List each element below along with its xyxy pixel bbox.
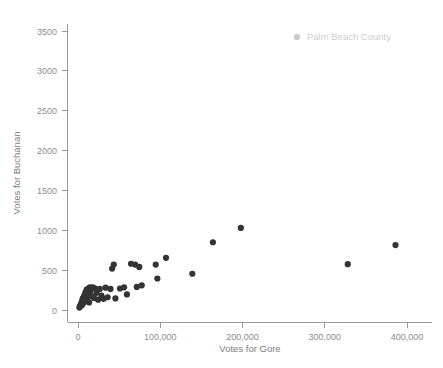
x-axis: 0100,000200,000300,000400,000: [68, 323, 433, 343]
data-point: [86, 299, 92, 305]
y-tick-label: 2500: [37, 106, 57, 116]
y-tick-label: 2000: [37, 146, 57, 156]
chart-legend: Palm Beach County: [294, 31, 391, 42]
y-tick-group: 0500100015002000250030003500: [37, 27, 68, 316]
data-point: [111, 261, 117, 267]
x-tick-label: 300,000: [308, 332, 341, 342]
x-tick-label: 100,000: [144, 332, 177, 342]
legend-label: Palm Beach County: [307, 31, 391, 42]
data-points-group: [76, 225, 398, 311]
data-point: [97, 286, 103, 292]
data-point: [210, 239, 216, 245]
data-point: [112, 295, 118, 301]
scatter-chart: 0500100015002000250030003500 0100,000200…: [0, 0, 443, 368]
data-point: [107, 286, 113, 292]
x-tick-label: 200,000: [226, 332, 259, 342]
y-tick-label: 1500: [37, 186, 57, 196]
y-tick-label: 3000: [37, 66, 57, 76]
data-point: [136, 264, 142, 270]
y-tick-label: 1000: [37, 226, 57, 236]
data-point: [153, 261, 159, 267]
data-point: [154, 275, 160, 281]
data-point: [121, 284, 127, 290]
chart-canvas: 0500100015002000250030003500 0100,000200…: [0, 0, 443, 368]
data-point: [345, 261, 351, 267]
x-tick-label: 0: [75, 332, 80, 342]
legend-marker-icon: [294, 34, 300, 40]
x-tick-label: 400,000: [391, 332, 424, 342]
data-point: [189, 271, 195, 277]
data-point: [139, 282, 145, 288]
x-tick-group: 0100,000200,000300,000400,000: [75, 323, 423, 343]
y-tick-label: 500: [42, 266, 57, 276]
y-axis-title: Votes for Buchanan: [11, 132, 22, 215]
data-point: [124, 291, 130, 297]
y-axis: 0500100015002000250030003500: [37, 24, 68, 322]
data-point: [163, 255, 169, 261]
data-point: [238, 225, 244, 231]
x-axis-title: Votes for Gore: [219, 343, 280, 354]
y-tick-label: 0: [52, 306, 57, 316]
data-point: [392, 242, 398, 248]
data-point: [105, 294, 111, 300]
y-tick-label: 3500: [37, 27, 57, 37]
